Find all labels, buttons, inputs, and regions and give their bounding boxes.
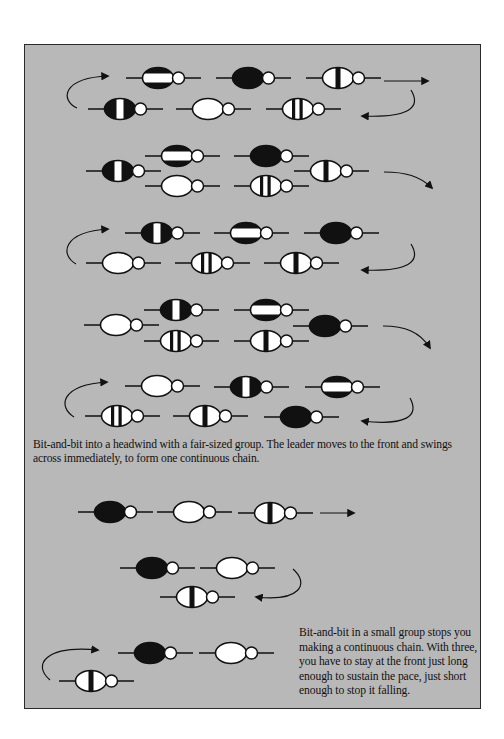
rider-white — [176, 99, 251, 120]
rider-hbar — [126, 68, 201, 89]
rider-white — [84, 315, 159, 336]
rider-white-center — [144, 300, 219, 321]
rider-center-stripe — [264, 253, 339, 274]
rider-white — [125, 376, 200, 397]
large-group-step-5 — [65, 376, 413, 428]
rider-white — [157, 502, 232, 523]
rider-black — [120, 558, 195, 579]
rider-two-stripes — [85, 406, 160, 427]
arrow-curve-right-down-icon — [384, 172, 432, 188]
rider-center-stripe — [306, 68, 381, 89]
rider-black — [78, 502, 153, 523]
rider-white — [86, 253, 161, 274]
rider-center-stripe — [160, 587, 235, 608]
rider-hbar — [305, 377, 380, 398]
caption-large-group: Bit-and-bit into a headwind with a fair-… — [33, 438, 478, 466]
rider-black — [264, 407, 339, 428]
arrow-curve-right-down-icon — [383, 326, 430, 348]
rider-black — [304, 223, 379, 244]
rider-black — [118, 643, 193, 664]
rider-center-stripe — [294, 161, 369, 182]
rider-hbar — [145, 146, 220, 167]
rider-white — [200, 558, 275, 579]
arrow-curve-right-down-icon — [362, 90, 415, 116]
rider-center-stripe — [234, 331, 309, 352]
large-group-step-2 — [86, 146, 432, 197]
arrow-curve-left-up-icon — [67, 76, 108, 108]
rider-two-stripes — [266, 99, 341, 120]
rider-hbar — [214, 223, 289, 244]
rider-black — [234, 146, 309, 167]
arrow-curve-left-up-icon — [65, 382, 107, 417]
rider-white-center — [88, 99, 163, 120]
small-group-step-2 — [120, 558, 301, 608]
rider-center-stripe — [173, 406, 248, 427]
rider-white-center — [214, 377, 289, 398]
rider-black — [216, 68, 291, 89]
large-group-step-3 — [67, 223, 415, 274]
caption-small-group: Bit-and-bit in a small group stops you m… — [299, 626, 479, 699]
rider-two-stripes — [175, 253, 250, 274]
rider-center-stripe — [59, 671, 134, 692]
rider-white — [145, 176, 220, 197]
rider-two-stripes — [144, 331, 219, 352]
rider-center-stripe — [238, 503, 313, 524]
rider-hbar — [234, 300, 309, 321]
rider-black — [293, 316, 368, 337]
small-group-step-3 — [42, 643, 274, 692]
large-group-step-4 — [84, 300, 430, 352]
small-group-step-1 — [78, 502, 354, 524]
rider-two-stripes — [234, 176, 309, 197]
rider-white-center — [86, 161, 161, 182]
large-group-step-1 — [67, 68, 428, 120]
rider-white — [199, 643, 274, 664]
arrow-curve-left-up-icon — [67, 229, 108, 264]
rider-white-center — [125, 223, 200, 244]
arrow-curve-right-down-icon — [362, 244, 415, 270]
arrow-curve-right-down-icon — [362, 398, 413, 422]
arrow-curve-right-down-icon — [256, 569, 301, 598]
